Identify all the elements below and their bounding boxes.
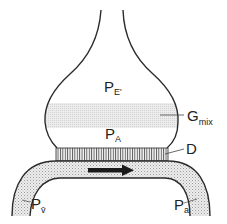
label-d: D: [186, 140, 197, 157]
label-p-v-bar: Pv̄: [31, 195, 46, 215]
label-p-a-arterial: Pa: [174, 196, 189, 215]
label-g-mix: Gmix: [187, 107, 213, 127]
capillary-inner-wall: [30, 178, 190, 216]
diagram-canvas: PE' Gmix PA D Pv̄ Pa: [0, 0, 227, 224]
label-p-e-prime: PE': [104, 78, 122, 97]
gas-exchange-diagram: PE' Gmix PA D Pv̄ Pa: [0, 0, 227, 224]
diffusion-membrane: [56, 148, 168, 161]
